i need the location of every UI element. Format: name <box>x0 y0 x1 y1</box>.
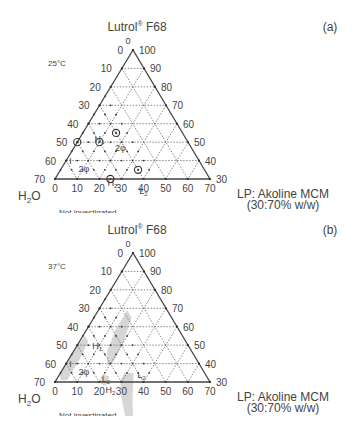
tick-mark <box>176 123 178 125</box>
tick-mark <box>143 67 145 69</box>
sample-dot <box>104 132 106 134</box>
sample-dot <box>93 114 95 116</box>
tick-mark <box>54 178 56 180</box>
sample-dot <box>110 363 112 365</box>
region-label: I <box>69 156 72 166</box>
tick-mark <box>209 381 211 383</box>
grid-line-water <box>111 87 166 179</box>
tick-mark <box>110 86 112 88</box>
tick-mark <box>98 178 100 180</box>
sample-dot <box>71 169 73 171</box>
sample-dot <box>110 344 112 346</box>
bottom-axis-tick-label: 10 <box>72 183 84 194</box>
left-axis-tick-label: 50 <box>56 340 68 351</box>
water-suffix: O <box>31 189 40 203</box>
left-axis-tick-label: 20 <box>90 285 102 296</box>
sample-dot <box>126 169 128 171</box>
bottom-axis-tick-label: 20 <box>94 386 106 397</box>
sample-dot <box>126 150 128 152</box>
sample-dot <box>93 317 95 319</box>
left-axis-tick-label: 40 <box>67 322 79 333</box>
tick-mark <box>76 141 78 143</box>
grid-lines <box>66 68 199 179</box>
right-axis-tick-label: 90 <box>150 63 162 74</box>
tick-mark <box>187 344 189 346</box>
sample-dot <box>115 317 117 319</box>
left-axis-tick-label: 60 <box>45 156 57 167</box>
region-label: H2 <box>105 385 116 396</box>
right-axis-tick-label: 30 <box>216 377 228 388</box>
top-axis-title-suffix: F68 <box>143 20 167 34</box>
sample-dot <box>104 298 106 300</box>
sample-dot <box>93 335 95 337</box>
region-label: L2 <box>102 374 111 385</box>
sample-dot <box>87 344 89 346</box>
sample-dot <box>82 132 84 134</box>
grid-line-lp <box>188 364 199 382</box>
sample-dot <box>76 363 78 365</box>
tick-mark <box>87 326 89 328</box>
region-label: 2φ <box>78 164 89 174</box>
sample-dot <box>104 150 106 152</box>
sample-dot <box>121 344 123 346</box>
sample-dot <box>143 363 145 365</box>
temperature-label: 25°C <box>48 59 66 68</box>
lp-corner-label-ratio: (30:70% w/w) <box>247 401 320 415</box>
sample-dot <box>110 326 112 328</box>
ternary-panel-b: H12φL2H2IL2Not investigated0102030405060… <box>0 203 357 416</box>
left-axis-tick-label: 50 <box>56 137 68 148</box>
left-axis-tick-label: 70 <box>34 377 46 388</box>
tick-mark <box>121 270 123 272</box>
right-axis-tick-label: 90 <box>150 266 162 277</box>
tick-mark <box>132 252 134 254</box>
left-axis-tick-label: 30 <box>78 303 90 314</box>
region-label-subscript: 1 <box>99 346 103 352</box>
sample-dot <box>104 169 106 171</box>
right-axis-tick-label: 80 <box>161 285 173 296</box>
left-axis-tick-label: 20 <box>90 82 102 93</box>
sample-dot <box>115 335 117 337</box>
right-axis-tick-label: 100 <box>139 248 156 259</box>
sample-dot <box>60 169 62 171</box>
water-corner-label: H2O <box>18 392 40 408</box>
sample-dot <box>115 372 117 374</box>
right-axis-tick-label: 40 <box>205 156 217 167</box>
sample-dot <box>126 372 128 374</box>
sample-dot <box>110 104 112 106</box>
sample-dot <box>93 353 95 355</box>
tick-mark <box>165 307 167 309</box>
not-investigated-label: Not investigated <box>59 411 116 416</box>
right-axis-tick-label: 60 <box>183 322 195 333</box>
left-axis-tick-label: 40 <box>67 119 79 130</box>
tick-mark <box>76 178 78 180</box>
sample-dot <box>82 353 84 355</box>
tick-mark <box>165 381 167 383</box>
left-axis-tick-label: 30 <box>78 100 90 111</box>
ternary-panel-a: H12φH2I2φL2Not investigated0102030405060… <box>0 0 357 213</box>
sample-dot <box>132 363 134 365</box>
tick-mark <box>110 289 112 291</box>
bottom-axis-tick-label: 60 <box>182 386 194 397</box>
tick-mark <box>165 104 167 106</box>
sample-dot <box>104 317 106 319</box>
apex-zero-label: 0 <box>125 239 130 249</box>
sample-dot <box>99 326 101 328</box>
right-axis-tick-label: 100 <box>139 45 156 56</box>
sample-dot <box>71 372 73 374</box>
bottom-axis-tick-label: 50 <box>160 386 172 397</box>
left-axis-tick-label: 60 <box>45 359 57 370</box>
region-label: 2φ <box>78 367 89 377</box>
sample-dot <box>132 141 134 143</box>
sample-dot <box>148 372 150 374</box>
sample-dot <box>143 160 145 162</box>
tick-mark <box>65 159 67 161</box>
sample-dot <box>121 123 123 125</box>
sample-dot <box>98 160 100 162</box>
apex-zero-label: 0 <box>125 36 130 46</box>
tick-mark <box>176 326 178 328</box>
grid-line-lp <box>144 327 177 382</box>
right-axis-tick-label: 50 <box>194 137 206 148</box>
tick-mark <box>65 362 67 364</box>
grid-lines <box>66 271 199 382</box>
sample-dot <box>110 307 112 309</box>
